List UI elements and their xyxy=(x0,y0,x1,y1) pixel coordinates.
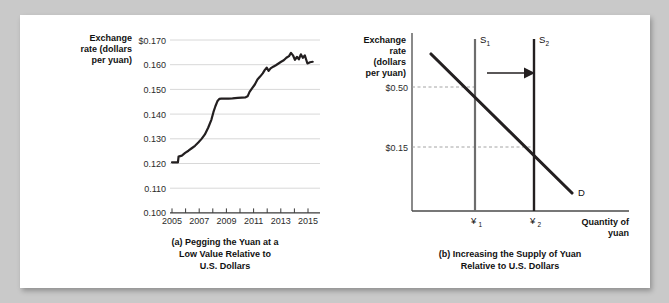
panel-a-x-tick-labels: 2005 2007 2009 2011 2013 2015 xyxy=(162,216,318,226)
panel-b-y-tick-high: $0.50 xyxy=(385,83,408,93)
panel-a-x-ticks xyxy=(172,208,308,213)
panel-a-x-tick-4: 2013 xyxy=(271,216,291,226)
panel-b-demand-curve xyxy=(431,54,572,193)
panel-a-x-tick-1: 2007 xyxy=(189,216,209,226)
panel-a-y-tick-3: 0.140 xyxy=(143,110,166,120)
panel-a-caption-line3: U.S. Dollars xyxy=(200,261,251,271)
panel-b-x-axis-title-line1: Quantity of xyxy=(582,217,630,227)
panel-a-line-chart: Exchange rate (dollars per yuan) $0.170 … xyxy=(20,15,340,288)
panel-a-y-tick-4: 0.130 xyxy=(143,134,166,144)
panel-b-supply-sub-s1: 1 xyxy=(487,40,491,47)
panel-b-y-axis-title-line4: per yuan) xyxy=(365,68,406,78)
panel-b-shift-arrow-icon xyxy=(487,68,535,79)
panel-b-x-tick-sub-q1: 1 xyxy=(479,221,483,228)
panel-a-caption-line2: Low Value Relative to xyxy=(179,249,272,259)
panel-b-caption-line2: Relative to U.S. Dollars xyxy=(461,261,560,271)
panel-b-supply-demand-diagram: Exchange rate (dollars per yuan) $0.50 $… xyxy=(340,15,650,288)
panel-a-y-tick-2: 0.150 xyxy=(143,85,166,95)
panel-a-y-tick-5: 0.120 xyxy=(143,159,166,169)
panel-a-data-line xyxy=(172,53,313,162)
panel-a-y-tick-labels: $0.170 0.160 0.150 0.140 0.130 0.120 0.1… xyxy=(138,36,166,219)
panel-a-x-tick-0: 2005 xyxy=(162,216,182,226)
panel-a-x-tick-5: 2015 xyxy=(298,216,318,226)
panel-b-x-tick-sub-q2: 2 xyxy=(538,221,542,228)
panel-b-y-tick-low: $0.15 xyxy=(385,143,408,153)
panel-a-caption-line1: (a) Pegging the Yuan at a xyxy=(172,237,280,247)
panel-b-svg: Exchange rate (dollars per yuan) $0.50 $… xyxy=(340,15,650,288)
panel-a-y-tick-1: 0.160 xyxy=(143,60,166,70)
panel-a-gridlines xyxy=(170,40,320,188)
panel-a-y-axis-title-line3: per yuan) xyxy=(91,55,132,65)
panel-a-y-axis-title-line2: rate (dollars xyxy=(80,44,132,54)
panel-a-x-tick-3: 2011 xyxy=(244,216,263,226)
figure-card: Exchange rate (dollars per yuan) $0.170 … xyxy=(20,15,650,288)
panel-b-x-axis-title-line2: yuan xyxy=(608,228,629,238)
panel-b-caption-line1: (b) Increasing the Supply of Yuan xyxy=(439,249,581,259)
panel-a-y-tick-6: 0.110 xyxy=(144,184,166,194)
panel-a-y-axis-title-line1: Exchange xyxy=(89,33,132,43)
panel-a-svg: Exchange rate (dollars per yuan) $0.170 … xyxy=(20,15,340,288)
panel-b-y-axis-title-line2: rate xyxy=(389,46,406,56)
panel-b-y-axis-title-line3: (dollars xyxy=(373,57,406,67)
panel-b-x-tick-label-q1: ¥ xyxy=(470,215,477,226)
panel-b-x-tick-label-q2: ¥ xyxy=(529,215,536,226)
panel-a-y-tick-0: $0.170 xyxy=(138,36,166,46)
panel-b-supply-label-s1: S xyxy=(480,34,486,45)
panel-b-supply-sub-s2: 2 xyxy=(546,40,550,47)
panel-b-supply-label-s2: S xyxy=(539,34,545,45)
panel-b-y-axis-title-line1: Exchange xyxy=(363,35,406,45)
panel-b-demand-label: D xyxy=(578,187,585,198)
panel-a-x-tick-2: 2009 xyxy=(216,216,236,226)
